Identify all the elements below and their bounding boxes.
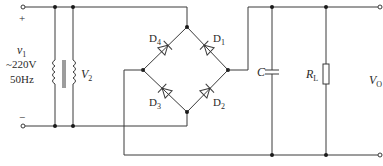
input-terminal-minus xyxy=(21,124,25,128)
minus-label: − xyxy=(19,112,25,123)
node-load-bottom xyxy=(324,153,328,157)
output-top-wire xyxy=(228,7,378,70)
input-terminal-plus xyxy=(21,5,25,9)
circuit-diagram xyxy=(0,0,383,166)
node-load-top xyxy=(324,5,328,9)
frequency-label: 50Hz xyxy=(10,74,34,85)
node-primary-top xyxy=(53,5,57,9)
secondary-subscript: 2 xyxy=(88,74,92,83)
node-primary-bottom xyxy=(53,124,57,128)
input-top-wire xyxy=(25,7,187,27)
resistor-icon xyxy=(323,7,329,155)
plus-label: + xyxy=(19,13,25,24)
secondary-voltage-label: V2 xyxy=(81,68,92,83)
output-terminal-bottom xyxy=(378,153,382,157)
node-secondary-bottom xyxy=(71,124,75,128)
d3-label: D3 xyxy=(149,97,161,111)
d1-label: D1 xyxy=(213,33,225,47)
capacitor-label: C xyxy=(257,66,265,78)
input-bottom-wire xyxy=(25,112,187,126)
source-label: v1 xyxy=(17,44,26,59)
capacitor-icon xyxy=(265,7,279,155)
node-bridge-bottom xyxy=(185,110,189,114)
voltage-label: ~220V xyxy=(6,59,36,70)
d4-label: D4 xyxy=(149,33,161,47)
node-bridge-top xyxy=(185,25,189,29)
node-cap-top xyxy=(270,5,274,9)
transformer xyxy=(53,7,76,126)
node-secondary-top xyxy=(71,5,75,9)
d2-label: D2 xyxy=(213,97,225,111)
load-label: RL xyxy=(306,68,318,83)
output-voltage-label: VO xyxy=(369,74,382,89)
output-bottom-wire xyxy=(124,70,378,155)
output-terminal-top xyxy=(378,5,382,9)
node-cap-bottom xyxy=(270,153,274,157)
